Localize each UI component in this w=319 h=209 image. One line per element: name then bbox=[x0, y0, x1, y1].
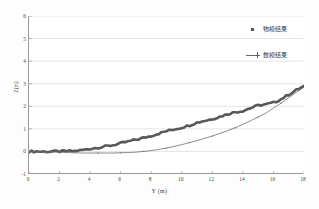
x-axis-tick-labels: 024681012141618 bbox=[28, 176, 303, 186]
series-marker bbox=[189, 142, 190, 143]
x-axis-tick: 4 bbox=[81, 176, 97, 183]
y-axis-tick: 0 bbox=[10, 148, 26, 154]
y-axis-title: Z(m) bbox=[13, 67, 19, 107]
y-axis-tick: 5 bbox=[10, 36, 26, 42]
chart-legend: 物模结果 数模结果 bbox=[246, 24, 314, 76]
x-axis-tick: 0 bbox=[20, 176, 36, 183]
line-plus-marker-icon bbox=[246, 51, 260, 59]
x-axis-tick: 2 bbox=[51, 176, 67, 183]
x-axis-tick: 14 bbox=[234, 176, 250, 183]
series-marker bbox=[235, 127, 236, 128]
series-line-2 bbox=[29, 87, 304, 153]
x-axis-tick: 10 bbox=[173, 176, 189, 183]
x-axis-tick: 6 bbox=[112, 176, 128, 183]
y-axis-tick: 1 bbox=[10, 126, 26, 132]
series-marker bbox=[303, 87, 304, 88]
series-marker bbox=[212, 136, 213, 137]
legend-entry-numerical-model[interactable]: 数模结果 bbox=[246, 50, 314, 60]
y-axis-tick: 6 bbox=[10, 13, 26, 19]
series-marker bbox=[281, 103, 282, 104]
x-axis-tick: 18 bbox=[295, 176, 311, 183]
legend-label-numerical-model: 数模结果 bbox=[263, 51, 287, 59]
series-marker bbox=[258, 117, 259, 118]
x-axis-tick: 12 bbox=[203, 176, 219, 183]
square-marker-icon bbox=[246, 25, 260, 33]
y-axis-tick: 4 bbox=[10, 58, 26, 64]
series-marker bbox=[51, 152, 52, 153]
x-axis-tick: 16 bbox=[264, 176, 280, 183]
x-axis-tick: 8 bbox=[142, 176, 158, 183]
series-marker bbox=[74, 152, 75, 153]
series-line-1 bbox=[29, 86, 304, 152]
chart-container: 6543210-1 024681012141618 Z(m) Y (m) 物模结… bbox=[0, 0, 319, 209]
series-marker bbox=[143, 151, 144, 152]
x-axis-title: Y (m) bbox=[0, 188, 319, 194]
series-marker bbox=[120, 152, 121, 153]
legend-label-physical-model: 物模结果 bbox=[263, 25, 287, 33]
legend-entry-physical-model[interactable]: 物模结果 bbox=[246, 24, 314, 34]
series-marker bbox=[29, 151, 30, 152]
series-marker bbox=[97, 152, 98, 153]
series-marker bbox=[166, 147, 167, 148]
